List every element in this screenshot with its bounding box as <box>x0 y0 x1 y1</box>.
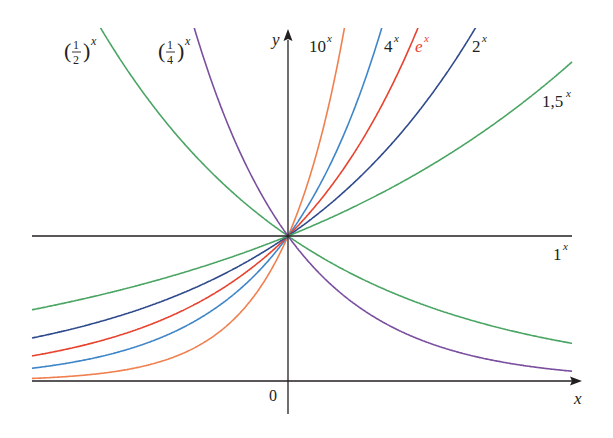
svg-text:x: x <box>481 32 487 44</box>
svg-text:): ) <box>177 38 184 63</box>
svg-text:(: ( <box>158 38 165 63</box>
svg-text:(: ( <box>64 38 71 63</box>
x-axis-label: x <box>573 389 582 408</box>
label-half-pow-x: ( 1 2 ) x <box>64 34 97 67</box>
label-e-pow-x: e x <box>415 32 429 56</box>
label-quarter-pow-x: ( 1 4 ) x <box>158 34 191 67</box>
svg-text:2: 2 <box>472 37 481 56</box>
svg-text:4: 4 <box>384 37 393 56</box>
svg-text:x: x <box>184 34 191 48</box>
label-ten-pow-x: 10 x <box>309 32 332 56</box>
curves <box>32 20 572 378</box>
origin-label: 0 <box>269 387 277 404</box>
svg-text:1,5: 1,5 <box>542 92 563 111</box>
svg-text:x: x <box>565 87 571 99</box>
svg-text:4: 4 <box>167 53 173 67</box>
svg-text:10: 10 <box>309 37 326 56</box>
label-four-pow-x: 4 x <box>384 32 399 56</box>
svg-text:2: 2 <box>73 53 79 67</box>
exponential-functions-chart: y x 0 ( 1 2 ) x ( 1 4 ) x 10 x 4 x e x 2… <box>0 0 613 438</box>
svg-text:x: x <box>423 32 429 44</box>
curve-e-x <box>32 20 421 356</box>
svg-text:x: x <box>326 32 332 44</box>
svg-text:1: 1 <box>167 38 173 52</box>
svg-text:e: e <box>415 37 423 56</box>
y-axis-arrow-icon <box>284 29 293 41</box>
curve-1-5-x <box>32 62 572 310</box>
svg-text:x: x <box>562 240 568 252</box>
label-one-pow-x: 1 x <box>553 240 568 264</box>
svg-text:): ) <box>83 38 90 63</box>
label-two-pow-x: 2 x <box>472 32 487 56</box>
svg-text:x: x <box>90 34 97 48</box>
label-onefive-pow-x: 1,5 x <box>542 87 571 111</box>
curve-2-x <box>32 20 480 338</box>
svg-text:1: 1 <box>553 245 562 264</box>
curve--1-4-x <box>192 20 572 371</box>
y-axis-label: y <box>270 30 280 49</box>
svg-text:x: x <box>393 32 399 44</box>
svg-text:1: 1 <box>73 38 79 52</box>
